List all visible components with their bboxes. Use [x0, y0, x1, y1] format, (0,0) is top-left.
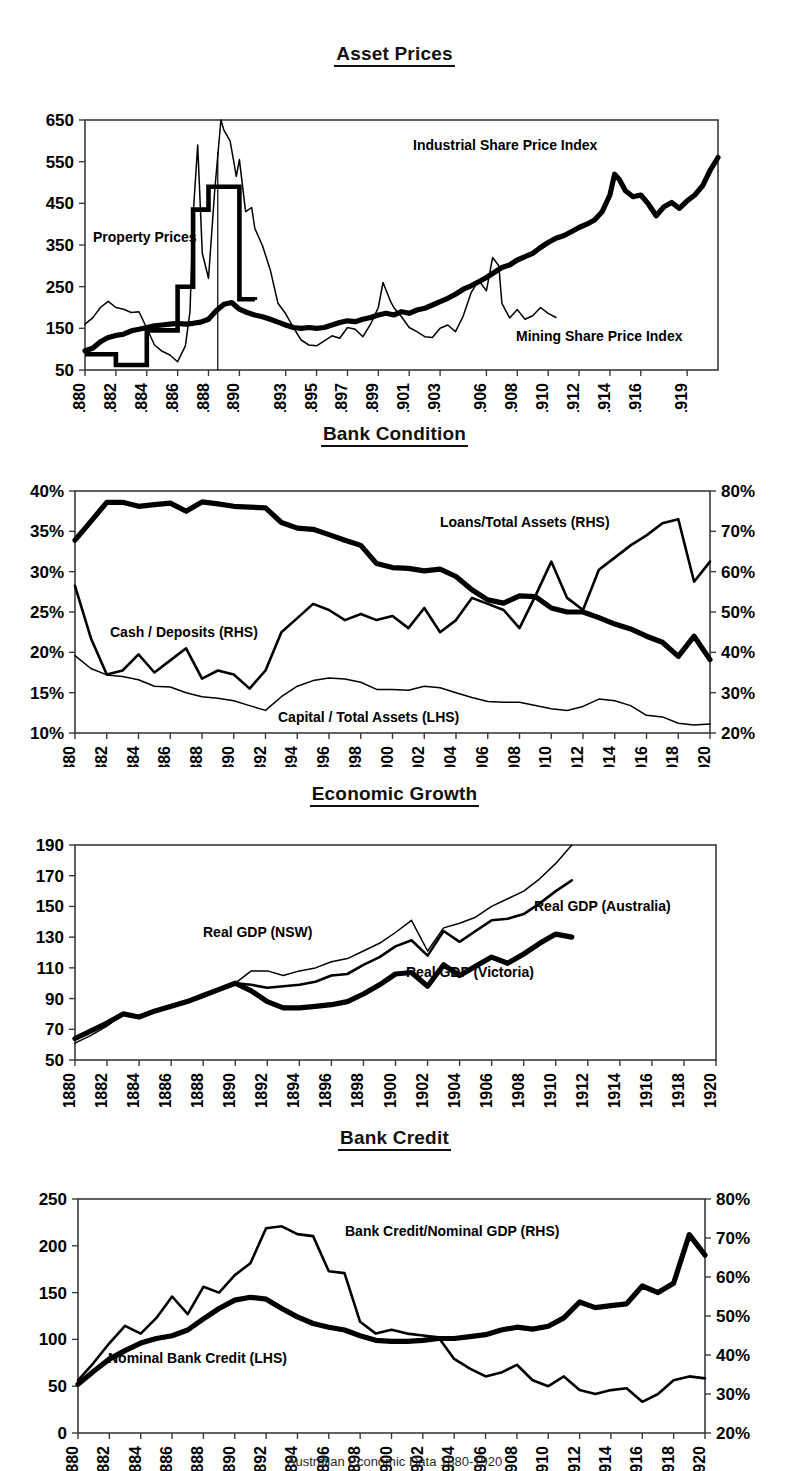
x-axis-label: 1880 [61, 1073, 78, 1107]
x-axis-ticks-economic-growth: 1880188218841886188818901892189418961898… [61, 1060, 719, 1107]
annotation-real-gdp-victoria: Real GDP (Victoria) [406, 964, 534, 980]
y-axis-label: 40% [721, 643, 755, 662]
y-axis-label: 200 [39, 1237, 67, 1256]
x-axis-label: 1902 [410, 746, 427, 767]
annotation-property-prices: Property Prices [93, 229, 197, 245]
asset-prices-svg: 50150250350450550650 1880188218841886188… [0, 67, 789, 412]
y-axis-label: 50% [716, 1307, 750, 1326]
y-axis-label: 80% [721, 482, 755, 501]
chart-panel-asset-prices: Asset Prices 50150250350450550650 188018… [0, 44, 789, 412]
y-axis-label: 80% [716, 1190, 750, 1209]
y-axis-label: 100 [39, 1330, 67, 1349]
y-axis-label: 50 [45, 1051, 64, 1070]
y-axis-label: 650 [46, 111, 74, 130]
chart-title-text: Bank Condition [321, 424, 468, 447]
y-axis-label: 25% [30, 603, 64, 622]
economic-growth-svg: 507090110130150170190 188018821884188618… [0, 807, 789, 1107]
x-axis-label: 1890 [220, 746, 237, 767]
x-axis-label: 1888 [195, 383, 212, 412]
series-group-economic-growth [75, 845, 572, 1043]
y-axis-label: 60% [721, 563, 755, 582]
x-axis-label: 1910 [537, 746, 554, 767]
x-axis-label: 1898 [347, 746, 364, 767]
x-axis-label: 1919 [673, 383, 690, 412]
x-axis-label: 1908 [506, 746, 523, 767]
x-axis-label: 1906 [474, 746, 491, 767]
x-axis-label: 1882 [102, 383, 119, 412]
chart-panel-economic-growth: Economic Growth 507090110130150170190 18… [0, 784, 789, 1107]
x-axis-label: 1886 [156, 746, 173, 767]
y-axis-right-ticks-bank-credit: 20%30%40%50%60%70%80% [705, 1190, 750, 1443]
y-axis-label: 30% [721, 684, 755, 703]
x-axis-label: 1900 [379, 746, 396, 767]
x-axis-label: 1914 [606, 1073, 623, 1107]
series-line [75, 934, 572, 1038]
x-axis-label: 1882 [93, 746, 110, 767]
x-axis-label: 1903 [426, 383, 443, 412]
y-axis-label: 130 [36, 928, 64, 947]
x-axis-label: 1914 [596, 383, 613, 412]
x-axis-label: 1886 [164, 383, 181, 412]
chart-title-asset-prices: Asset Prices [0, 44, 789, 67]
annotation-real-gdp-nsw: Real GDP (NSW) [203, 924, 312, 940]
annotation-industrial-share-price-index: Industrial Share Price Index [413, 137, 598, 153]
x-axis-label: 1897 [333, 383, 350, 412]
y-axis-label: 70 [45, 1020, 64, 1039]
y-axis-label: 50 [55, 361, 74, 380]
y-axis-label: 40% [30, 482, 64, 501]
x-axis-label: 1916 [638, 1073, 655, 1107]
x-axis-label: 1912 [569, 746, 586, 767]
x-axis-label: 1908 [510, 1073, 527, 1107]
y-axis-label: 30% [30, 563, 64, 582]
y-axis-label: 15% [30, 684, 64, 703]
y-axis-label: 250 [39, 1190, 67, 1209]
plot-economic-growth: 507090110130150170190 188018821884188618… [0, 807, 789, 1107]
plot-bank-condition: 10%15%20%25%30%35%40% 20%30%40%50%60%70%… [0, 447, 789, 767]
series-line [75, 519, 710, 688]
series-group-bank-credit [78, 1226, 705, 1402]
x-axis-label: 1884 [125, 1073, 142, 1107]
x-axis-label: 1880 [71, 383, 88, 412]
y-axis-label: 250 [46, 278, 74, 297]
x-axis-label: 1898 [349, 1073, 366, 1107]
y-axis-label: 35% [30, 522, 64, 541]
x-axis-label: 1904 [446, 1073, 463, 1107]
y-axis-label: 190 [36, 836, 64, 855]
y-axis-left-ticks-bank-condition: 10%15%20%25%30%35%40% [30, 482, 75, 743]
y-axis-label: 110 [37, 959, 64, 978]
y-axis-label: 20% [716, 1424, 750, 1443]
x-axis-label: 1920 [702, 1073, 719, 1107]
y-axis-label: 70% [721, 522, 755, 541]
annotation-real-gdp-australia: Real GDP (Australia) [534, 898, 671, 914]
annotation-loans-total-assets: Loans/Total Assets (RHS) [440, 514, 610, 530]
x-axis-label: 1882 [93, 1073, 110, 1107]
x-axis-label: 1910 [534, 383, 551, 412]
x-axis-label: 1918 [664, 746, 681, 767]
x-axis-label: 1890 [221, 1073, 238, 1107]
x-axis-label: 1893 [272, 383, 289, 412]
x-axis-label: 1910 [542, 1073, 559, 1107]
x-axis-label: 1884 [125, 746, 142, 767]
annotation-mining-share-price-index: Mining Share Price Index [516, 328, 683, 344]
x-axis-ticks-bank-condition: 1880188218841886188818901892189418961898… [61, 733, 713, 767]
x-axis-label: 1892 [253, 1073, 270, 1107]
annotation-capital-total-assets: Capital / Total Assets (LHS) [278, 709, 459, 725]
plot-bank-credit: 050100150200250 20%30%40%50%60%70%80% 18… [0, 1151, 789, 1471]
x-axis-label: 1916 [633, 746, 650, 767]
y-axis-label: 30% [716, 1385, 750, 1404]
x-axis-label: 1906 [472, 383, 489, 412]
x-axis-label: 1894 [285, 1073, 302, 1107]
x-axis-label: 1920 [696, 746, 713, 767]
y-axis-label: 50% [721, 603, 755, 622]
chart-panel-bank-condition: Bank Condition 10%15%20%25%30%35%40% 20%… [0, 424, 789, 767]
series-line [85, 158, 718, 351]
annotation-bank-credit-nominal-gdp: Bank Credit/Nominal GDP (RHS) [345, 1223, 559, 1239]
annotation-nominal-bank-credit: Nominal Bank Credit (LHS) [108, 1350, 287, 1366]
x-axis-label: 1906 [478, 1073, 495, 1107]
x-axis-label: 1884 [133, 383, 150, 412]
y-axis-label: 20% [30, 643, 64, 662]
bank-credit-svg: 050100150200250 20%30%40%50%60%70%80% 18… [0, 1151, 789, 1471]
x-axis-label: 1916 [627, 383, 644, 412]
x-axis-label: 1892 [252, 746, 269, 767]
x-axis-label: 1896 [315, 746, 332, 767]
